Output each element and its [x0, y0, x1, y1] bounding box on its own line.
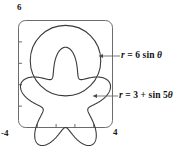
- equation-label-circle: r = 6 sin θ: [121, 51, 162, 61]
- y-axis-ticks: [19, 42, 23, 106]
- equation-circle-body: = 6 sin: [125, 50, 157, 60]
- x-max-label: 4: [113, 128, 118, 137]
- callout-line-circle: [99, 54, 121, 58]
- y-max-label: 6: [17, 3, 22, 12]
- x-min-label: -4: [1, 129, 9, 138]
- plot-canvas: [0, 0, 177, 146]
- polar-graph-figure: 6 -4 4 r = 6 sin θ r = 3 + sin 5θ: [0, 0, 177, 146]
- curve-r-6-sin-theta: [30, 25, 101, 96]
- equation-label-rose: r = 3 + sin 5θ: [119, 91, 173, 101]
- equation-rose-theta: θ: [168, 90, 173, 100]
- equation-circle-theta: θ: [157, 50, 162, 60]
- equation-rose-body: = 3 + sin 5: [123, 90, 168, 100]
